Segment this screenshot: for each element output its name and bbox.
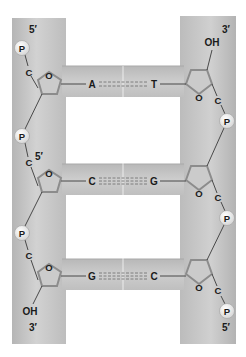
- svg-text:P: P: [224, 213, 231, 224]
- left-phosphate-1: P: [15, 41, 30, 56]
- left-bottom-3prime-label: 3′: [29, 322, 38, 333]
- right-carbon-1: C: [215, 95, 222, 106]
- right-bottom-5prime-label: 5′: [222, 322, 231, 333]
- svg-text:P: P: [224, 306, 231, 317]
- right-carbon-2: C: [215, 192, 222, 203]
- left-ring-oxygen-2: O: [45, 168, 52, 179]
- right-ring-oxygen-3: O: [195, 282, 202, 293]
- svg-text:P: P: [19, 43, 26, 54]
- right-phosphate-3: P: [220, 304, 235, 319]
- left-carbon-3: C: [26, 250, 33, 261]
- right-ring-oxygen-2: O: [195, 188, 202, 199]
- left-carbon-2: C: [26, 157, 33, 168]
- base-C-left: C: [88, 176, 95, 187]
- left-top-5prime-label: 5′: [29, 24, 38, 35]
- right-top-oh-label: OH: [205, 37, 220, 48]
- dna-structure-diagram: A T C G G C P P P P P P C O C 5′ O C O O…: [0, 0, 246, 357]
- base-A: A: [88, 79, 95, 90]
- left-phosphate-3: P: [15, 226, 30, 241]
- right-carbon-3: C: [215, 285, 222, 296]
- left-carbon-1: C: [26, 67, 33, 78]
- base-G-right: G: [150, 176, 158, 187]
- right-ring-oxygen-1: O: [195, 92, 202, 103]
- svg-text:P: P: [224, 116, 231, 127]
- right-phosphate-2: P: [220, 211, 235, 226]
- left-ring-oxygen-3: O: [45, 262, 52, 273]
- base-C-right: C: [150, 271, 157, 282]
- left-inner-5prime: 5′: [35, 151, 44, 162]
- left-ring-oxygen-1: O: [45, 70, 52, 81]
- base-T: T: [151, 79, 157, 90]
- left-bottom-oh-label: OH: [23, 306, 38, 317]
- left-phosphate-2: P: [15, 129, 30, 144]
- right-phosphate-1: P: [220, 114, 235, 129]
- right-top-3prime-label: 3′: [222, 24, 231, 35]
- base-G-left: G: [88, 271, 96, 282]
- svg-text:P: P: [19, 228, 26, 239]
- svg-text:P: P: [19, 131, 26, 142]
